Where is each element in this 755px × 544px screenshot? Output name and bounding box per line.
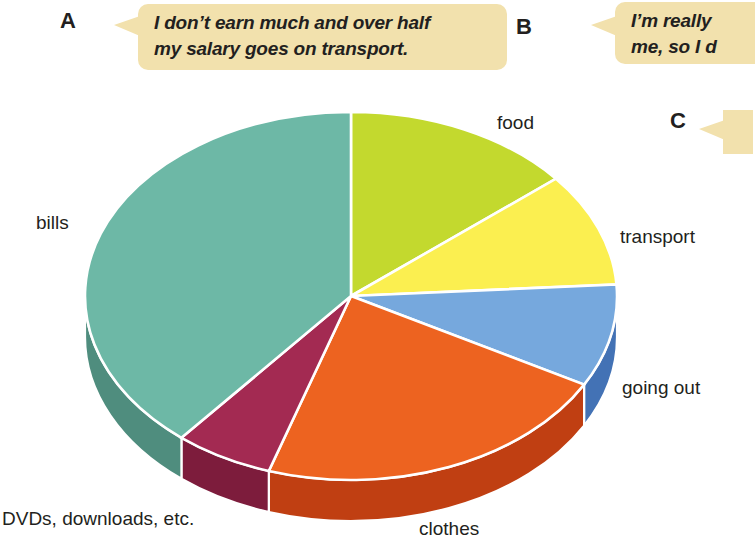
speech-bubble-b-text: I’m really me, so I d (631, 8, 741, 60)
speech-bubble-b: I’m really me, so I d (615, 2, 755, 64)
speech-bubble-a-text: I don’t earn much and over half my salar… (154, 10, 493, 62)
pie-label-food: food (497, 112, 534, 134)
callout-marker-c: C (670, 108, 686, 134)
pie-label-dvds: DVDs, downloads, etc. (2, 508, 194, 530)
pie-label-going-out: going out (622, 377, 700, 399)
pie-label-transport: transport (620, 226, 695, 248)
speech-bubble-b-tail (591, 16, 617, 36)
callout-marker-b: B (516, 14, 532, 40)
callout-marker-a: A (60, 8, 76, 34)
speech-bubble-a-tail (114, 16, 140, 36)
pie-label-clothes: clothes (419, 518, 479, 540)
speech-bubble-a: I don’t earn much and over half my salar… (138, 4, 507, 70)
speech-bubble-c-tail (699, 120, 725, 140)
pie-label-bills: bills (36, 212, 69, 234)
speech-bubble-c (723, 110, 753, 154)
